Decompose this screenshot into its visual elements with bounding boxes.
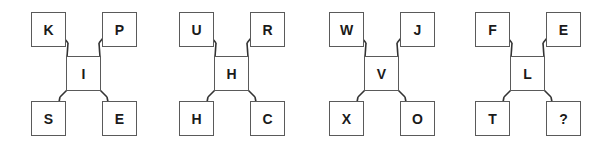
box-center: L xyxy=(510,56,545,91)
puzzle-group-4: F E L T ? xyxy=(475,0,585,145)
box-top-left: F xyxy=(475,12,510,47)
box-top-right: R xyxy=(250,12,285,47)
box-bottom-right: ? xyxy=(546,101,581,136)
box-bottom-right: C xyxy=(250,101,285,136)
box-bottom-right: E xyxy=(102,101,137,136)
box-center: I xyxy=(66,56,101,91)
box-top-left: W xyxy=(329,12,364,47)
box-bottom-left: H xyxy=(179,101,214,136)
box-center: V xyxy=(364,56,399,91)
box-top-left: U xyxy=(179,12,214,47)
puzzle-group-1: K P I S E xyxy=(31,0,141,145)
box-bottom-right: O xyxy=(400,101,435,136)
box-center: H xyxy=(214,56,249,91)
puzzle-group-3: W J V X O xyxy=(329,0,439,145)
box-bottom-left: S xyxy=(31,101,66,136)
box-top-right: J xyxy=(400,12,435,47)
box-bottom-left: X xyxy=(329,101,364,136)
box-top-right: P xyxy=(102,12,137,47)
box-bottom-left: T xyxy=(475,101,510,136)
puzzle-group-2: U R H H C xyxy=(179,0,289,145)
box-top-right: E xyxy=(546,12,581,47)
box-top-left: K xyxy=(31,12,66,47)
